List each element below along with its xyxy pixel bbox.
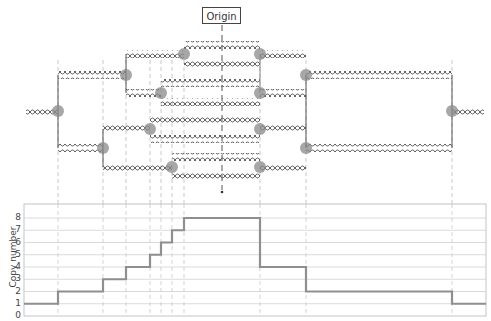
replication-fork-icon [166, 161, 178, 173]
replication-fork-icon [52, 105, 64, 117]
replication-diagram [0, 0, 491, 321]
dna-strand [150, 116, 260, 124]
dna-strand [58, 71, 126, 79]
origin-end-dot [221, 191, 224, 194]
dna-strand [103, 125, 150, 133]
origin-label: Origin [202, 7, 241, 24]
y-tick-label: 1 [13, 299, 21, 308]
dna-strand [161, 98, 260, 106]
y-tick-label: 0 [13, 311, 21, 320]
replication-fork-icon [446, 105, 458, 117]
dna-strand [172, 153, 260, 161]
replication-fork-icon [300, 142, 312, 154]
dna-strand [161, 79, 260, 87]
dna-strand [150, 135, 260, 143]
y-tick-label: 8 [13, 213, 21, 222]
copy-number-chart [24, 204, 486, 316]
replication-fork-icon [254, 161, 266, 173]
replication-fork-icon [97, 142, 109, 154]
dna-strand [260, 125, 306, 133]
y-tick-label: 7 [13, 225, 21, 234]
dna-strand [184, 41, 260, 49]
replication-fork-icon [300, 69, 312, 81]
dna-strand [103, 163, 172, 171]
dna-strand [172, 172, 260, 180]
y-tick-label: 5 [13, 250, 21, 259]
dna-strand [260, 50, 306, 58]
dna-strand [126, 50, 184, 58]
y-tick-label: 3 [13, 274, 21, 283]
dna-strands [26, 41, 484, 180]
y-tick-label: 6 [13, 238, 21, 247]
replication-fork-icon [254, 87, 266, 99]
replication-fork-icon [254, 48, 266, 60]
dna-strand [306, 144, 452, 152]
y-tick-label: 4 [13, 262, 21, 271]
chart-frame [24, 204, 486, 316]
replication-fork-icon [144, 123, 156, 135]
replication-fork-icon [120, 69, 132, 81]
dna-strand [260, 163, 306, 171]
dna-strand [260, 89, 306, 97]
dna-strand [58, 144, 103, 152]
replication-fork-icon [254, 123, 266, 135]
replication-fork-icon [155, 87, 167, 99]
dna-strand [306, 71, 452, 79]
y-tick-label: 2 [13, 287, 21, 296]
replication-fork-icon [178, 48, 190, 60]
dna-strand [184, 60, 260, 68]
